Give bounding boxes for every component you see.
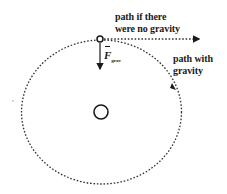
central-body	[94, 105, 108, 119]
label-no-gravity-line1: path if there	[115, 12, 166, 22]
force-gravity-label: Fgrav	[104, 49, 121, 63]
orbit-direction-arrow-icon	[170, 83, 176, 90]
label-with-gravity-line1: path with	[173, 54, 213, 64]
label-no-gravity-line2: were no gravity	[115, 24, 180, 34]
orbit-diagram	[0, 0, 227, 194]
orbit-path	[22, 40, 182, 184]
orbiting-body	[97, 36, 103, 42]
label-with-gravity-line2: gravity	[173, 66, 203, 76]
force-subscript: grav	[111, 58, 121, 63]
vector-arrow-mark	[105, 46, 110, 47]
